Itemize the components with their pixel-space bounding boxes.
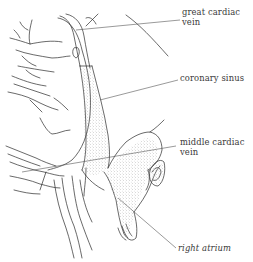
label-coronary-sinus: coronary sinus	[180, 74, 244, 84]
label-right-atrium: right atrium	[178, 244, 231, 254]
heart-illustration	[0, 0, 253, 262]
label-line: vein	[180, 148, 244, 158]
label-line: vein	[182, 18, 240, 28]
anatomical-diagram: great cardiac vein coronary sinus middle…	[0, 0, 253, 262]
label-middle-cardiac-vein: middle cardiac vein	[180, 138, 244, 157]
label-great-cardiac-vein: great cardiac vein	[182, 8, 240, 27]
label-line: right atrium	[178, 244, 231, 254]
label-line: coronary sinus	[180, 74, 244, 84]
